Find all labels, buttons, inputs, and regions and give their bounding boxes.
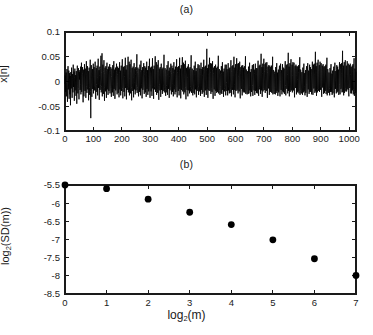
panel-b-xtick-label: 4 — [229, 297, 234, 308]
panel-b-ytick-label: -6 — [52, 198, 60, 209]
panel-b-datapoints — [62, 182, 360, 279]
panel-b-xtick-label: 0 — [62, 297, 67, 308]
panel-a-xtick-label: 200 — [114, 133, 130, 144]
panel-b-ytick-label: -8.5 — [44, 288, 60, 299]
panel-b-xtick-label: 1 — [104, 297, 109, 308]
figure-container: (a) x[n] 0100200300400500600700800900100… — [0, 0, 373, 335]
panel-b-xtick-label: 5 — [270, 297, 275, 308]
panel-a-xtick-label: 1000 — [339, 133, 360, 144]
panel-b-ytick-label: -7 — [52, 234, 60, 245]
panel-b-ytick-label: -6.5 — [44, 216, 60, 227]
panel-b-datapoint — [103, 185, 110, 192]
panel-b-datapoint — [353, 272, 360, 279]
panel-b-plot: 01234567-8.5-8-7.5-7-6.5-6-5.5 — [0, 158, 373, 335]
panel-b-ytick-label: -7.5 — [44, 252, 60, 263]
panel-a-ytick-label: 0.05 — [42, 51, 61, 62]
panel-b-xtick-label: 2 — [145, 297, 150, 308]
panel-b-datapoint — [311, 255, 318, 262]
panel-b-datapoint — [269, 236, 276, 243]
panel-a-ytick-label: -0.1 — [44, 125, 60, 136]
panel-a-xtick-label: 300 — [142, 133, 158, 144]
panel-a-xtick-label: 800 — [284, 133, 300, 144]
panel-a-xtick-label: 600 — [228, 133, 244, 144]
panel-b-datapoint — [62, 182, 69, 189]
panel-a-xtick-label: 700 — [256, 133, 272, 144]
panel-a-ytick-label: 0.1 — [47, 26, 60, 37]
panel-b-axis-box — [65, 185, 356, 294]
panel-a-ytick-label: -0.05 — [38, 101, 60, 112]
panel-a-xtick-label: 0 — [62, 133, 67, 144]
panel-a-signal-trace — [65, 49, 356, 118]
panel-a-ytick-label: 0 — [55, 76, 60, 87]
panel-b-xtick-label: 7 — [353, 297, 358, 308]
panel-b-ytick-label: -5.5 — [44, 179, 60, 190]
panel-b-datapoint — [186, 209, 193, 216]
panel-b-axes: 01234567-8.5-8-7.5-7-6.5-6-5.5 — [44, 179, 359, 308]
panel-a-xtick-label: 500 — [199, 133, 215, 144]
panel-b-xtick-label: 3 — [187, 297, 192, 308]
panel-a-xtick-label: 900 — [313, 133, 329, 144]
panel-a-xtick-label: 400 — [171, 133, 187, 144]
panel-b-xtick-label: 6 — [312, 297, 317, 308]
panel-a-xtick-label: 100 — [85, 133, 101, 144]
panel-b-datapoint — [145, 196, 152, 203]
panel-a-plot: 01002003004005006007008009001000-0.1-0.0… — [0, 0, 373, 160]
panel-b-ytick-label: -8 — [52, 270, 60, 281]
panel-b-datapoint — [228, 221, 235, 228]
panel-a: (a) x[n] 0100200300400500600700800900100… — [0, 0, 373, 160]
panel-b: (b) log2(SD(m)) log2(m) 01234567-8.5-8-7… — [0, 158, 373, 335]
